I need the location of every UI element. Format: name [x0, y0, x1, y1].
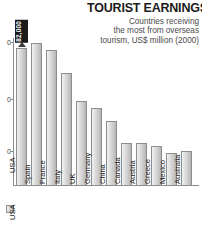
y-tick-label-0: 0 — [2, 39, 11, 46]
bar-label-usa: USA — [9, 157, 17, 173]
bar-label-china: China — [99, 164, 107, 184]
bar-label-uk: UK — [69, 173, 77, 184]
bar-label-austria: Austria — [129, 160, 137, 184]
callout-tip-usa — [18, 42, 26, 47]
chart-legend: USA — [6, 192, 66, 222]
tourist-earnings-chart: TOURIST EARNINGS Countries receiving the… — [0, 0, 202, 225]
bar-france — [46, 50, 57, 186]
bar-australia — [181, 151, 192, 186]
legend-label-usa: USA — [9, 204, 17, 220]
bar-label-france: France — [39, 160, 47, 184]
value-callout-usa: 82,000 — [15, 20, 28, 43]
bar-label-germany: Germany — [84, 153, 92, 184]
bar-label-australia: Australia — [174, 154, 182, 184]
bar-series: USA 82,000 Spain France Italy UK — [14, 8, 200, 186]
bar-label-italy: Italy — [54, 170, 62, 184]
y-tick-label-1: 0 — [2, 96, 11, 103]
bar-label-greece: Greece — [144, 159, 152, 184]
bar-label-spain: Spain — [24, 165, 32, 184]
bar-italy — [61, 73, 72, 186]
plot-area: 0 0 0 USA 82,000 Spain France Italy — [13, 8, 200, 188]
bar-label-canada: Canada — [114, 157, 122, 184]
bar-label-mexico: Mexico — [159, 160, 167, 184]
y-tick-label-2: 0 — [2, 148, 11, 155]
